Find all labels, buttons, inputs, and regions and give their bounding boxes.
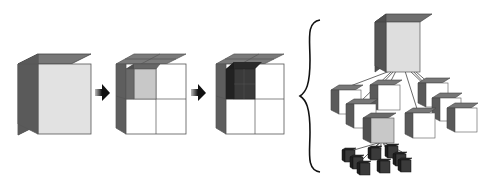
arrow-icon xyxy=(95,84,110,101)
tree-level1-node xyxy=(447,103,478,132)
tree-level1-node xyxy=(405,108,436,138)
octree-diagram: Octree subdivision xyxy=(0,0,496,186)
arrow-icon xyxy=(191,84,206,101)
first-subdivision-cube xyxy=(116,54,186,134)
highlighted-octant xyxy=(126,64,160,99)
tree-level1-node-highlighted xyxy=(363,113,396,143)
octree-tree xyxy=(331,14,478,175)
tree-root-node xyxy=(375,14,432,72)
tree-level2-nodes xyxy=(342,144,412,175)
curly-brace xyxy=(300,20,320,172)
second-subdivision-cube xyxy=(216,54,284,134)
root-cube xyxy=(18,54,91,135)
